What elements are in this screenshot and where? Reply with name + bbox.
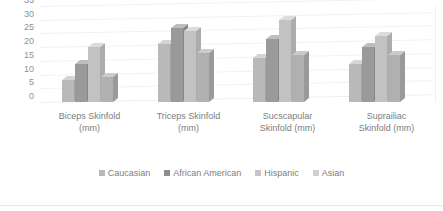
x-axis-label: Suprailiac Skinfold (mm) — [337, 110, 436, 134]
bottom-divider — [0, 205, 443, 206]
bar-hispanic — [375, 36, 387, 102]
bar-group — [239, 6, 335, 102]
legend-label: Asian — [322, 168, 345, 178]
y-axis-tick-15: 15 — [24, 51, 34, 60]
bar-caucasian — [349, 64, 361, 102]
y-axis-tick-30: 30 — [24, 10, 34, 19]
bar-asian — [101, 77, 113, 102]
bar-caucasian — [158, 44, 170, 102]
bar-asian — [388, 55, 400, 102]
bar-hispanic — [184, 31, 196, 102]
bar-asian — [292, 55, 304, 102]
bar-african-american — [75, 64, 87, 102]
bar-african-american — [266, 39, 278, 102]
bar-caucasian — [253, 58, 265, 102]
x-axis-labels: Biceps Skinfold (mm)Triceps Skinfold (mm… — [40, 110, 436, 144]
legend-label: Hispanic — [264, 168, 299, 178]
bar-front-face — [158, 44, 170, 102]
bar-front-face — [171, 28, 183, 102]
bar-front-face — [279, 20, 291, 102]
bar-hispanic — [88, 47, 100, 102]
bar-front-face — [253, 58, 265, 102]
bar-front-face — [88, 47, 100, 102]
legend-swatch-icon — [255, 170, 261, 176]
chart-legend: CaucasianAfrican AmericanHispanicAsian — [0, 168, 443, 178]
legend-swatch-icon — [99, 170, 105, 176]
bar-group — [48, 6, 144, 102]
bar-front-face — [292, 55, 304, 102]
bar-group — [335, 6, 431, 102]
bar-front-face — [101, 77, 113, 102]
bar-groups — [48, 6, 430, 102]
y-axis-tick-25: 25 — [24, 23, 34, 32]
y-axis-tick-10: 10 — [24, 65, 34, 74]
y-axis-tick-5: 5 — [29, 78, 34, 87]
x-axis-label: Sucscapular Skinfold (mm) — [238, 110, 337, 134]
legend-swatch-icon — [164, 170, 170, 176]
bar-caucasian — [62, 80, 74, 102]
legend-label: Caucasian — [108, 168, 151, 178]
bar-asian — [197, 53, 209, 102]
x-axis-label: Triceps Skinfold (mm) — [139, 110, 238, 134]
bar-front-face — [362, 47, 374, 102]
y-axis-tick-0: 0 — [29, 92, 34, 101]
bar-front-face — [388, 55, 400, 102]
plot-right-border — [435, 6, 436, 102]
bar-front-face — [197, 53, 209, 102]
bar-front-face — [375, 36, 387, 102]
bar-side-face — [113, 73, 118, 102]
bar-front-face — [349, 64, 361, 102]
bar-front-face — [184, 31, 196, 102]
bar-front-face — [75, 64, 87, 102]
bar-front-face — [266, 39, 278, 102]
bar-side-face — [400, 51, 405, 102]
y-axis: 35302520151050 — [0, 0, 38, 110]
bar-side-face — [304, 51, 309, 102]
skinfold-bar-chart: 35302520151050 Biceps Skinfold (mm)Trice… — [0, 0, 443, 211]
legend-item-caucasian[interactable]: Caucasian — [99, 168, 151, 178]
bar-hispanic — [279, 20, 291, 102]
legend-item-african-american[interactable]: African American — [164, 168, 241, 178]
bar-african-american — [362, 47, 374, 102]
y-axis-tick-35: 35 — [24, 0, 34, 5]
bar-african-american — [171, 28, 183, 102]
bar-front-face — [62, 80, 74, 102]
x-axis-label: Biceps Skinfold (mm) — [40, 110, 139, 134]
legend-item-hispanic[interactable]: Hispanic — [255, 168, 299, 178]
legend-label: African American — [173, 168, 241, 178]
legend-swatch-icon — [313, 170, 319, 176]
y-axis-tick-20: 20 — [24, 37, 34, 46]
legend-item-asian[interactable]: Asian — [313, 168, 345, 178]
bar-group — [144, 6, 240, 102]
bar-side-face — [209, 49, 214, 102]
